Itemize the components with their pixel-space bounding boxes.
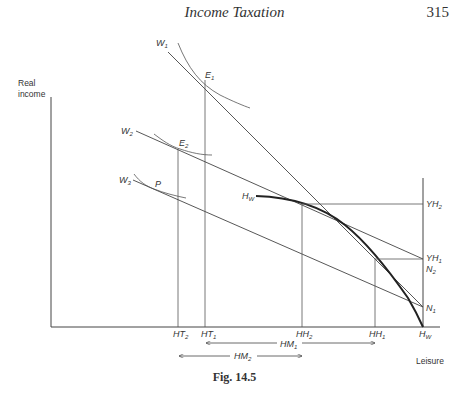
label-yh2: YH2 bbox=[426, 199, 443, 210]
y-axis-label-line1: Real bbox=[18, 78, 36, 88]
tick-ht1: HT1 bbox=[201, 329, 216, 340]
label-e1: E1 bbox=[205, 70, 214, 81]
tick-ht2: HT2 bbox=[173, 329, 189, 340]
y-axis-label-line2: income bbox=[18, 89, 46, 99]
label-n1: N1 bbox=[426, 303, 436, 314]
label-p: P bbox=[155, 179, 161, 189]
x-axis-label: Leisure bbox=[416, 356, 444, 366]
label-yh1: YH1 bbox=[426, 253, 442, 264]
label-hw-curve: HW bbox=[242, 191, 256, 202]
tick-hw: HW bbox=[419, 329, 433, 340]
budget-line-w3 bbox=[133, 180, 423, 307]
span-hm1: HM1 bbox=[280, 339, 297, 350]
label-e2: E2 bbox=[179, 138, 189, 149]
figure-caption: Fig. 14.5 bbox=[0, 370, 469, 385]
tick-hh2: HH2 bbox=[296, 329, 313, 340]
label-n2: N2 bbox=[426, 264, 437, 275]
household-production-curve bbox=[256, 196, 423, 327]
label-w1: W1 bbox=[156, 38, 168, 49]
label-w3: W3 bbox=[119, 175, 132, 186]
budget-line-w1 bbox=[168, 52, 423, 307]
tick-hh1: HH1 bbox=[369, 329, 385, 340]
span-hm2: HM2 bbox=[234, 351, 252, 362]
budget-line-w2 bbox=[136, 131, 423, 259]
label-w2: W2 bbox=[121, 126, 134, 137]
labour-leisure-diagram: W1 E1 W2 E2 W3 P HW YH2 YH1 N2 N1 Real i… bbox=[0, 0, 469, 394]
